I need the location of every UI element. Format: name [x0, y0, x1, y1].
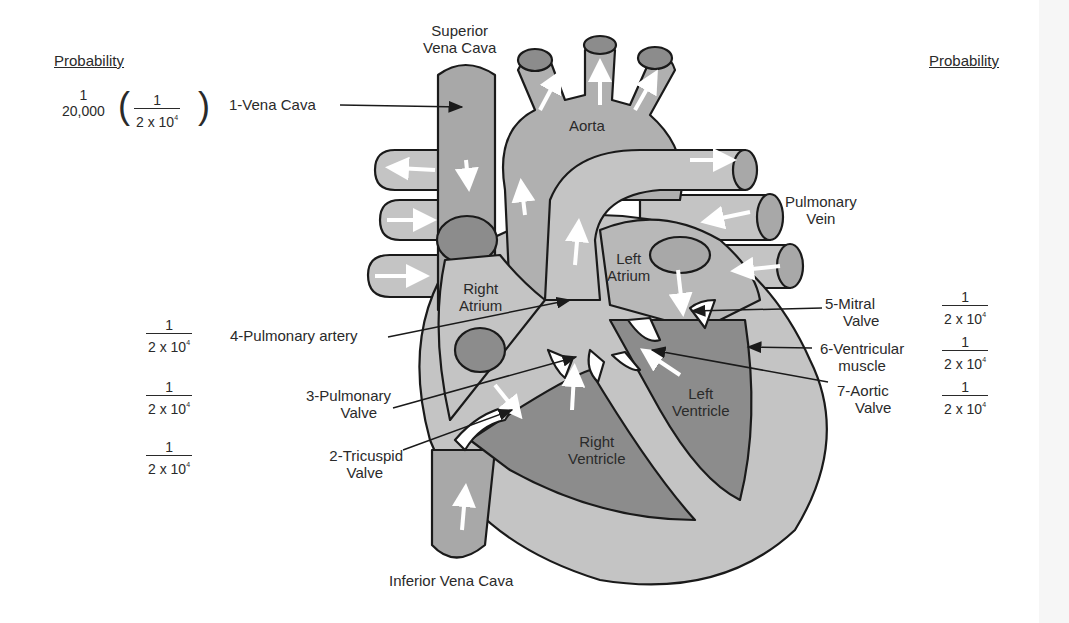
- probability-aortic-valve: 1 2 x 104: [942, 380, 988, 417]
- label-mitral-valve: 5-Mitral Valve: [825, 295, 879, 329]
- label-aortic-valve: 7-Aortic Valve: [837, 382, 891, 416]
- label-tricuspid-valve: 2-Tricuspid Valve: [303, 447, 403, 481]
- probability-tricuspid-valve: 1 2 x 104: [146, 440, 192, 477]
- probability-vena-cava: 1 20,000: [60, 88, 107, 119]
- label-superior-vena-cava: Superior Vena Cava: [423, 22, 496, 56]
- label-aorta: Aorta: [569, 117, 605, 134]
- probability-mitral-valve: 1 2 x 104: [942, 290, 988, 327]
- label-pulmonary-artery: 4-Pulmonary artery: [230, 327, 358, 344]
- paren-open: (: [118, 88, 130, 124]
- label-pulmonary-valve: 3-Pulmonary Valve: [291, 387, 391, 421]
- label-vena-cava: 1-Vena Cava: [229, 96, 316, 113]
- probability-vena-cava-alt: 1 2 x 104: [134, 93, 180, 130]
- probability-pulmonary-artery: 1 2 x 104: [146, 318, 192, 355]
- probability-heading-left: Probability: [54, 52, 124, 69]
- label-left-ventricle: Left Ventricle: [672, 385, 730, 419]
- probability-ventricular-muscle: 1 2 x 104: [942, 335, 988, 372]
- paren-close: ): [198, 88, 210, 124]
- label-right-ventricle: Right Ventricle: [568, 433, 626, 467]
- label-pulmonary-vein: Pulmonary Vein: [785, 193, 857, 227]
- label-ventricular-muscle: 6-Ventricular muscle: [820, 340, 904, 374]
- label-left-atrium: Left Atrium: [607, 250, 650, 284]
- heart-diagram: Probability Probability Superior Vena Ca…: [0, 0, 1069, 623]
- probability-heading-right: Probability: [929, 52, 999, 69]
- label-right-atrium: Right Atrium: [459, 280, 502, 314]
- probability-pulmonary-valve: 1 2 x 104: [146, 380, 192, 417]
- label-inferior-vena-cava: Inferior Vena Cava: [389, 572, 513, 589]
